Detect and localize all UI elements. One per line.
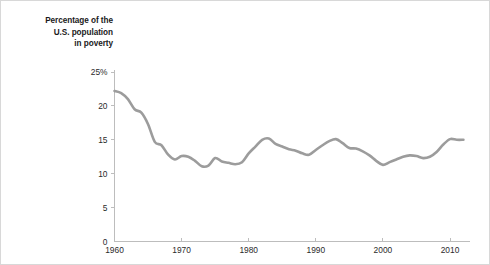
x-tick-label: 1970 bbox=[172, 245, 191, 255]
y-tick-label: 25% bbox=[91, 67, 108, 77]
y-tick-label: 5 bbox=[103, 203, 108, 213]
x-axis: 196019701980199020002010 bbox=[105, 238, 470, 255]
x-tick-label: 1980 bbox=[239, 245, 258, 255]
series-layer bbox=[115, 91, 464, 167]
x-tick-label: 2000 bbox=[374, 245, 393, 255]
y-tick-label: 15 bbox=[98, 135, 108, 145]
chart-figure: Percentage of the U.S. population in pov… bbox=[0, 0, 490, 265]
x-tick-label: 1960 bbox=[105, 245, 124, 255]
x-tick-label: 2010 bbox=[441, 245, 460, 255]
x-tick-label: 1990 bbox=[306, 245, 325, 255]
line-chart-plot: 0510152025% 196019701980199020002010 bbox=[1, 1, 490, 265]
poverty-rate-line bbox=[115, 91, 464, 167]
y-axis: 0510152025% bbox=[91, 67, 115, 247]
y-tick-label: 10 bbox=[98, 169, 108, 179]
y-tick-label: 20 bbox=[98, 101, 108, 111]
